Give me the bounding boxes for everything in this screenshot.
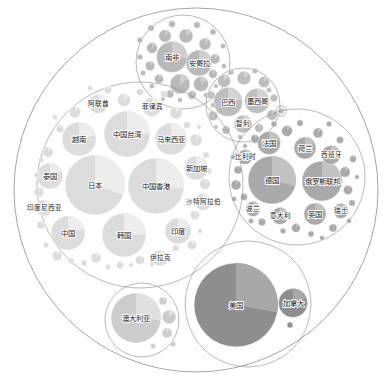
- bubble[interactable]: [297, 120, 303, 126]
- bubble[interactable]: [350, 156, 357, 163]
- bubble[interactable]: [248, 218, 253, 223]
- bubble[interactable]: [292, 224, 301, 233]
- bubble[interactable]: [209, 70, 218, 79]
- bubble[interactable]: [150, 343, 155, 348]
- bubble[interactable]: [170, 107, 182, 119]
- bubble[interactable]: [313, 128, 323, 138]
- bubble[interactable]: [231, 180, 241, 190]
- bubble[interactable]: [87, 85, 92, 90]
- bubble[interactable]: [270, 94, 278, 102]
- bubble[interactable]: [218, 75, 231, 88]
- bubble[interactable]: [194, 77, 209, 92]
- bubble[interactable]: [241, 194, 248, 201]
- bubble[interactable]: [145, 61, 155, 71]
- bubble[interactable]: [194, 22, 201, 29]
- bubble[interactable]: [190, 210, 199, 219]
- bubble[interactable]: [117, 262, 124, 269]
- bubble[interactable]: [214, 84, 218, 88]
- bubble[interactable]: [234, 166, 242, 174]
- bubble[interactable]: [220, 43, 225, 48]
- bubble[interactable]: [343, 185, 352, 194]
- bubble[interactable]: [237, 71, 251, 85]
- bubble[interactable]: [154, 74, 163, 83]
- bubble[interactable]: [211, 103, 216, 108]
- bubble[interactable]: [243, 144, 247, 148]
- bubble[interactable]: [329, 224, 337, 232]
- bubble[interactable]: [34, 187, 44, 197]
- bubble[interactable]: [69, 106, 81, 118]
- bubble-label-美国: 美国: [229, 301, 243, 310]
- bubble[interactable]: [140, 70, 145, 75]
- bubble[interactable]: [38, 157, 43, 162]
- bubble[interactable]: [355, 175, 360, 180]
- bubble[interactable]: [200, 179, 211, 190]
- bubble[interactable]: [198, 229, 203, 234]
- bubble[interactable]: [251, 135, 259, 143]
- bubble[interactable]: [210, 29, 216, 35]
- bubble[interactable]: [179, 29, 193, 43]
- bubble[interactable]: [190, 134, 202, 146]
- bubble[interactable]: [91, 253, 101, 263]
- bubble[interactable]: [258, 218, 266, 226]
- bubble[interactable]: [147, 43, 158, 54]
- bubble[interactable]: [320, 236, 325, 241]
- bubble[interactable]: [135, 255, 144, 264]
- bubble[interactable]: [104, 86, 112, 94]
- bubble[interactable]: [197, 125, 202, 130]
- bubble[interactable]: [252, 68, 258, 74]
- bubble[interactable]: [187, 240, 196, 249]
- bubble[interactable]: [255, 124, 264, 133]
- bubble[interactable]: [207, 91, 215, 99]
- bubble[interactable]: [162, 310, 176, 324]
- bubble[interactable]: [118, 94, 131, 107]
- bubble[interactable]: [184, 122, 191, 129]
- bubble[interactable]: [203, 152, 209, 158]
- bubble[interactable]: [173, 245, 179, 251]
- bubble[interactable]: [105, 264, 111, 270]
- bubble[interactable]: [349, 200, 355, 206]
- bubble[interactable]: [210, 54, 220, 64]
- bubble[interactable]: [336, 136, 343, 143]
- bubble[interactable]: [159, 297, 167, 305]
- bubble[interactable]: [37, 221, 45, 229]
- bubble[interactable]: [81, 260, 87, 266]
- bubble[interactable]: [129, 263, 134, 268]
- bubble[interactable]: [282, 126, 293, 137]
- bubble[interactable]: [159, 30, 171, 42]
- bubble[interactable]: [43, 147, 53, 157]
- bubble[interactable]: [232, 197, 237, 202]
- bubble[interactable]: [326, 121, 332, 127]
- bubble[interactable]: [308, 231, 314, 237]
- bubble[interactable]: [287, 322, 293, 328]
- bubble[interactable]: [161, 91, 168, 98]
- group-latin-america-cluster[interactable]: [206, 68, 280, 142]
- bubble[interactable]: [52, 251, 62, 261]
- bubble[interactable]: [162, 328, 172, 338]
- bubble[interactable]: [266, 87, 271, 92]
- bubble[interactable]: [68, 258, 74, 264]
- bubble[interactable]: [178, 98, 183, 103]
- bubble[interactable]: [271, 121, 277, 127]
- bubble[interactable]: [56, 125, 64, 133]
- bubble[interactable]: [214, 125, 218, 129]
- bubble[interactable]: [137, 37, 143, 43]
- bubble[interactable]: [52, 114, 57, 119]
- bubble[interactable]: [340, 167, 350, 177]
- bubble[interactable]: [258, 76, 269, 87]
- bubble[interactable]: [170, 341, 176, 347]
- bubble[interactable]: [280, 228, 286, 234]
- bubble[interactable]: [34, 172, 40, 178]
- bubble[interactable]: [136, 88, 143, 95]
- bubble[interactable]: [222, 64, 227, 69]
- bubble[interactable]: [170, 74, 190, 94]
- bubble-label-英国: 英国: [308, 210, 322, 219]
- bubble[interactable]: [347, 219, 352, 224]
- bubble[interactable]: [137, 54, 143, 60]
- bubble[interactable]: [206, 168, 212, 174]
- bubble[interactable]: [228, 69, 234, 75]
- bubble[interactable]: [43, 242, 49, 248]
- bubble[interactable]: [199, 38, 211, 50]
- bubble[interactable]: [169, 21, 176, 28]
- bubble[interactable]: [149, 83, 154, 88]
- bubble[interactable]: [148, 25, 154, 31]
